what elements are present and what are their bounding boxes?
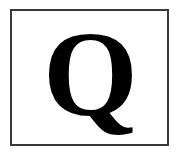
letter-glyph: Q bbox=[0, 0, 180, 153]
